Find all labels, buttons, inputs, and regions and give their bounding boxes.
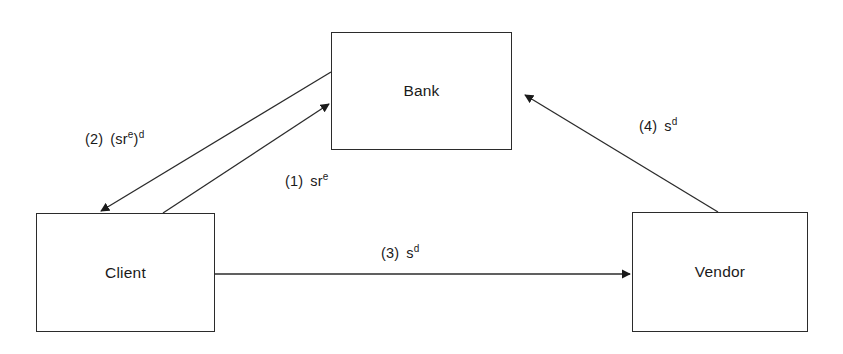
edge-3-step: (3) — [381, 245, 399, 261]
edge-2-expression-base: (sr — [110, 131, 128, 147]
edge-4-line — [525, 95, 718, 212]
edge-3-expression-sup: d — [414, 243, 420, 254]
edge-3-expression-base: s — [406, 245, 413, 261]
edge-4-expression-base: s — [664, 118, 671, 134]
edge-4-label: (4)sd — [639, 118, 678, 134]
node-client[interactable]: Client — [36, 213, 215, 332]
edge-2-label: (2)(sre)d — [85, 131, 144, 147]
node-bank[interactable]: Bank — [331, 32, 512, 150]
diagram-canvas: Bank Client Vendor (2)(sre)d (1)sre (4)s… — [0, 0, 843, 354]
edge-2-step: (2) — [85, 131, 103, 147]
edge-4-expression-sup: d — [672, 116, 678, 127]
edge-4-step: (4) — [639, 118, 657, 134]
edge-1-expression-base: sr — [310, 173, 322, 189]
node-vendor[interactable]: Vendor — [632, 212, 808, 332]
edge-2-expression-sup2: d — [139, 129, 145, 140]
node-vendor-label: Vendor — [695, 263, 745, 281]
edge-3-label: (3)sd — [381, 245, 420, 261]
edge-1-expression-sup: e — [323, 171, 329, 182]
node-client-label: Client — [105, 264, 146, 282]
edge-1-label: (1)sre — [285, 173, 329, 189]
node-bank-label: Bank — [403, 82, 439, 100]
edge-1-step: (1) — [285, 173, 303, 189]
